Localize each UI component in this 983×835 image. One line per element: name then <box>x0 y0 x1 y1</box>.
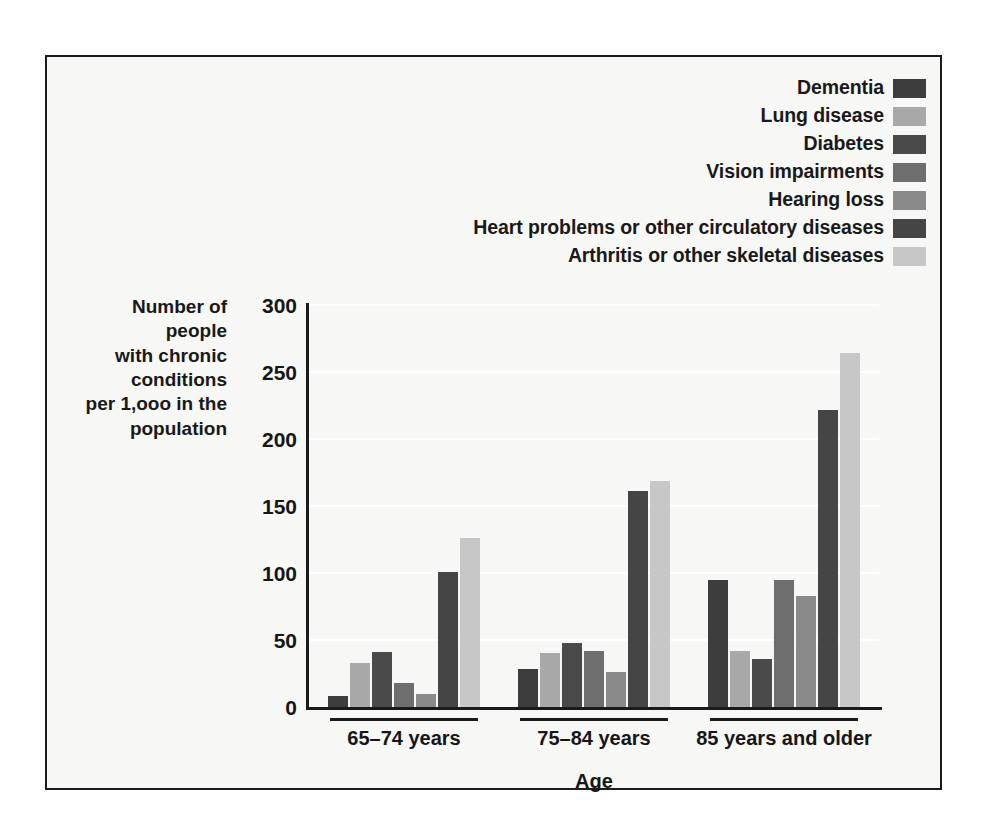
bar <box>650 481 670 707</box>
y-axis-tick-label: 250 <box>237 362 297 383</box>
y-axis-title-line: population <box>67 417 227 441</box>
bar <box>518 669 538 707</box>
bar-groups <box>309 305 879 707</box>
x-axis-group-labels: 65–74 years75–84 years85 years and older <box>309 710 879 770</box>
x-axis-title: Age <box>309 770 879 793</box>
bar <box>562 643 582 707</box>
x-axis-group-rule <box>710 718 858 721</box>
bar-group <box>499 305 689 707</box>
y-axis-title-line: Number of people <box>67 295 227 344</box>
bar <box>394 683 414 707</box>
chart-frame: DementiaLung diseaseDiabetesVision impai… <box>45 55 942 790</box>
x-axis-group-rule <box>330 718 478 721</box>
bar <box>328 696 348 707</box>
bar <box>840 353 860 707</box>
bar <box>796 596 816 707</box>
bar <box>774 580 794 707</box>
bar <box>460 538 480 707</box>
y-axis-tick-label: 100 <box>237 563 297 584</box>
x-axis-group: 85 years and older <box>689 710 879 770</box>
bar <box>628 491 648 707</box>
x-axis-group: 75–84 years <box>499 710 689 770</box>
bar <box>438 572 458 707</box>
y-axis-tick-label: 150 <box>237 496 297 517</box>
bar-group <box>689 305 879 707</box>
plot-area <box>309 305 879 707</box>
y-axis-tick-labels: 050100150200250300 <box>227 305 297 707</box>
x-axis-group-rule <box>520 718 668 721</box>
y-axis-title-line: per 1,ooo in the <box>67 392 227 416</box>
bar <box>752 659 772 707</box>
x-axis-group-label: 65–74 years <box>347 727 460 750</box>
bar <box>584 651 604 707</box>
bar <box>818 410 838 707</box>
bar <box>730 651 750 707</box>
y-axis-title: Number of peoplewith chronic conditionsp… <box>67 295 227 441</box>
x-axis-group-label: 85 years and older <box>696 727 872 750</box>
x-axis-group: 65–74 years <box>309 710 499 770</box>
plot-wrapper: Number of peoplewith chronic conditionsp… <box>47 57 944 792</box>
bar <box>540 653 560 707</box>
bar <box>350 663 370 707</box>
y-axis-tick-label: 300 <box>237 295 297 316</box>
bar <box>708 580 728 707</box>
bar <box>606 672 626 707</box>
y-axis-tick-label: 200 <box>237 429 297 450</box>
y-axis-tick-label: 50 <box>237 630 297 651</box>
x-axis-group-label: 75–84 years <box>537 727 650 750</box>
y-axis-title-line: with chronic conditions <box>67 344 227 393</box>
bar <box>372 652 392 707</box>
figure-root: DementiaLung diseaseDiabetesVision impai… <box>0 0 983 835</box>
bar-group <box>309 305 499 707</box>
y-axis-tick-label: 0 <box>237 697 297 718</box>
bar <box>416 694 436 707</box>
